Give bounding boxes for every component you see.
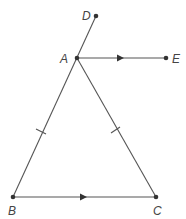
label-c: C (153, 204, 162, 218)
label-a: A (59, 52, 68, 66)
equal-tick-ab (36, 129, 46, 134)
point-a (75, 56, 80, 61)
label-b: B (8, 204, 16, 218)
point-c (154, 195, 159, 200)
parallel-arrow-icon (80, 194, 87, 201)
parallel-arrow-icon (117, 55, 124, 62)
label-d: D (82, 9, 91, 23)
geometry-diagram: D A E B C (0, 0, 186, 219)
label-e: E (172, 52, 181, 66)
point-e (164, 56, 169, 61)
segment-bd (13, 16, 96, 197)
point-d (94, 14, 99, 19)
point-b (11, 195, 16, 200)
segment-ac (77, 58, 156, 197)
